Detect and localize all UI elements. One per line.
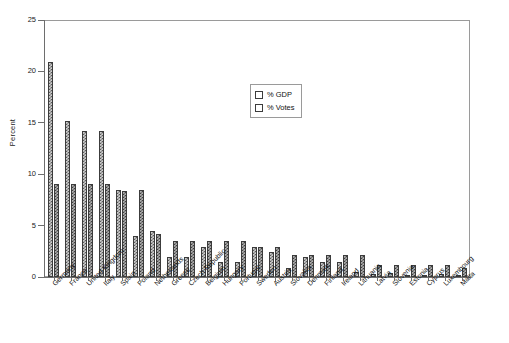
x-axis-tick	[462, 277, 463, 281]
bar-group	[320, 20, 331, 277]
bar-group	[82, 20, 93, 277]
legend-swatch-gdp-icon	[255, 91, 263, 99]
bar-group	[65, 20, 76, 277]
bar-group	[184, 20, 195, 277]
bar-gdp	[65, 121, 70, 277]
x-axis-tick	[139, 277, 140, 281]
legend-label-votes: % Votes	[267, 103, 295, 112]
bar-group	[48, 20, 59, 277]
bar-group	[269, 20, 280, 277]
legend-item-votes: % Votes	[255, 101, 295, 114]
bar-gdp	[99, 131, 104, 277]
bar-group	[99, 20, 110, 277]
x-axis-tick	[88, 277, 89, 281]
bar-votes	[139, 190, 144, 277]
x-axis-tick	[122, 277, 123, 281]
x-axis-tick	[207, 277, 208, 281]
bar-group	[456, 20, 467, 277]
y-axis-tick	[38, 20, 44, 21]
bar-gdp	[116, 190, 121, 277]
x-axis-tick	[173, 277, 174, 281]
x-axis-tick	[445, 277, 446, 281]
bar-votes	[54, 184, 59, 277]
y-axis-title: Percent	[8, 103, 17, 163]
y-axis-tick	[38, 277, 44, 278]
y-axis-tick	[38, 122, 44, 123]
x-axis-tick	[105, 277, 106, 281]
bar-group	[337, 20, 348, 277]
bar-votes	[88, 184, 93, 277]
bar-group	[201, 20, 212, 277]
bar-group	[235, 20, 246, 277]
y-axis-tick-label: 15	[0, 119, 36, 127]
x-axis-tick	[292, 277, 293, 281]
x-axis-tick	[411, 277, 412, 281]
bar-gdp	[82, 131, 87, 277]
bar-chart: 0510152025 Percent GermanyFranceUnited K…	[0, 0, 509, 343]
x-axis-tick	[156, 277, 157, 281]
bar-group	[286, 20, 297, 277]
bar-group	[116, 20, 127, 277]
x-axis-tick	[377, 277, 378, 281]
bar-group	[303, 20, 314, 277]
x-axis-tick	[394, 277, 395, 281]
bar-group	[354, 20, 365, 277]
x-axis-tick	[326, 277, 327, 281]
y-axis-tick	[38, 174, 44, 175]
bar-group	[439, 20, 450, 277]
bar-group	[150, 20, 161, 277]
x-axis-tick	[428, 277, 429, 281]
y-axis-tick-labels: 0510152025	[0, 0, 36, 343]
bar-group	[252, 20, 263, 277]
legend-item-gdp: % GDP	[255, 88, 295, 101]
y-axis-tick	[38, 71, 44, 72]
bar-group	[405, 20, 416, 277]
bar-group	[388, 20, 399, 277]
y-axis-tick-label: 5	[0, 222, 36, 230]
bar-votes	[122, 191, 127, 277]
y-axis-tick	[38, 225, 44, 226]
x-axis-tick	[275, 277, 276, 281]
y-axis-tick-label: 0	[0, 273, 36, 281]
x-axis-tick	[71, 277, 72, 281]
x-axis-tick	[343, 277, 344, 281]
bar-group	[167, 20, 178, 277]
y-axis-tick-label: 10	[0, 170, 36, 178]
legend-label-gdp: % GDP	[267, 90, 292, 99]
x-axis-tick	[360, 277, 361, 281]
x-axis-tick	[258, 277, 259, 281]
x-axis-tick	[309, 277, 310, 281]
x-axis-tick	[224, 277, 225, 281]
y-axis-tick-label: 25	[0, 16, 36, 24]
legend-swatch-votes-icon	[255, 104, 263, 112]
y-axis-tick-label: 20	[0, 67, 36, 75]
bar-gdp	[48, 62, 53, 277]
bar-group	[422, 20, 433, 277]
bar-group	[218, 20, 229, 277]
bar-group	[371, 20, 382, 277]
x-axis-tick	[54, 277, 55, 281]
bar-group	[133, 20, 144, 277]
bars-layer	[45, 20, 470, 277]
x-axis-tick	[241, 277, 242, 281]
chart-legend: % GDP % Votes	[250, 84, 302, 118]
x-axis-tick	[190, 277, 191, 281]
